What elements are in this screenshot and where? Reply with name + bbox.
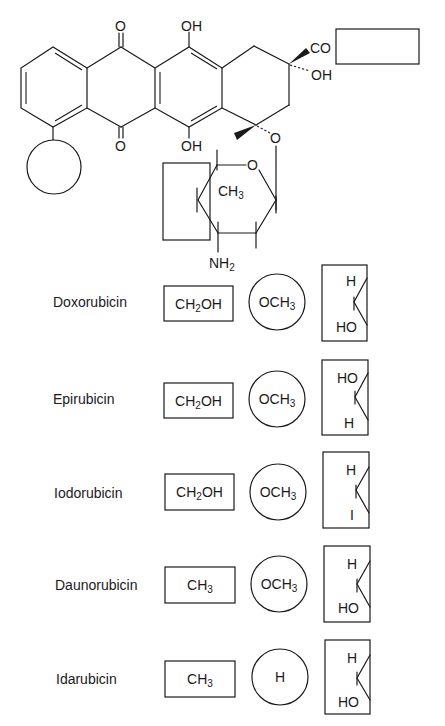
compound-name: Idarubicin bbox=[56, 671, 117, 687]
compound-row-epirubicin: Epirubicin CH2OH OCH3 HO H bbox=[53, 360, 368, 435]
sugar-ring-oxygen: O bbox=[247, 157, 258, 173]
r3-top: HO bbox=[337, 370, 358, 386]
r3-bottom: I bbox=[350, 507, 354, 523]
glycosidic-oxygen: O bbox=[270, 130, 281, 146]
ring-a bbox=[21, 47, 87, 127]
ring-c bbox=[155, 32, 222, 138]
r3-bottom: HO bbox=[336, 319, 357, 335]
compound-row-daunorubicin: Daunorubicin CH3 OCH3 H HO bbox=[55, 546, 370, 622]
sugar-amine: NH2 bbox=[209, 255, 235, 273]
compound-row-idarubicin: Idarubicin CH3 H H HO bbox=[56, 640, 370, 714]
anthracycline-structure-figure: O O OH OH bbox=[0, 0, 445, 726]
compound-name: Daunorubicin bbox=[55, 577, 138, 593]
r3-bottom: HO bbox=[338, 600, 359, 616]
anthracycline-core: O O OH OH bbox=[21, 18, 419, 273]
carbonyl-oxygen-bottom: O bbox=[115, 138, 126, 154]
c9-hydroxyl: OH bbox=[311, 67, 332, 83]
r3-top: H bbox=[346, 462, 356, 478]
carbonyl-oxygen-top: O bbox=[115, 18, 126, 34]
compound-name: Doxorubicin bbox=[53, 294, 127, 310]
r3-top: H bbox=[347, 650, 357, 666]
compound-row-iodorubicin: Iodorubicin CH2OH OCH3 H I bbox=[54, 452, 369, 528]
compound-name: Iodorubicin bbox=[54, 485, 123, 501]
sugar-methyl: CH3 bbox=[218, 183, 244, 201]
daunosamine-sugar bbox=[163, 150, 276, 252]
r3-bottom: H bbox=[344, 415, 354, 431]
hydroxyl-bottom: OH bbox=[181, 138, 202, 154]
r3-bottom: HO bbox=[338, 694, 359, 710]
ring-b bbox=[87, 33, 155, 138]
r2-placeholder-circle bbox=[27, 140, 81, 194]
side-chain-carbonyl: CO bbox=[310, 40, 331, 56]
r3-top: H bbox=[346, 273, 356, 289]
compound-name: Epirubicin bbox=[53, 391, 114, 407]
compound-row-doxorubicin: Doxorubicin CH2OH OCH3 H HO bbox=[53, 265, 367, 341]
hydroxyl-top: OH bbox=[181, 18, 202, 34]
r3-top: H bbox=[347, 556, 357, 572]
r2-value: H bbox=[275, 669, 285, 685]
r3-placeholder-box bbox=[163, 163, 210, 240]
r1-placeholder-box bbox=[336, 29, 419, 64]
